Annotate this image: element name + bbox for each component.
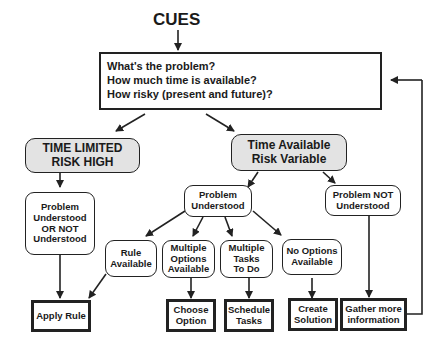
condition-either-understood: Problem Understood OR NOT Understood [25,192,95,255]
action-choose-option: Choose Option [166,299,216,332]
branch-time-available: Time Available Risk Variable [231,134,347,171]
condition-problem-understood: Problem Understood [184,185,252,217]
action-apply-rule: Apply Rule [31,300,91,332]
action-gather-information: Gather more information [340,298,407,331]
action-schedule-tasks: Schedule Tasks [224,299,274,332]
cues-title: CUES [153,10,200,30]
condition-problem-not-understood: Problem NOT Understood [325,185,401,216]
condition-rule-available: Rule Available [105,240,157,277]
assessment-line-problem: What's the problem? [107,60,273,74]
assessment-line-time: How much time is available? [107,74,273,88]
condition-no-options: No Options Available [282,239,342,275]
assessment-box: What's the problem? How much time is ava… [99,52,382,110]
branch-time-limited: TIME LIMITED RISK HIGH [25,138,140,173]
condition-multiple-tasks: Multiple Tasks To Do [220,240,273,278]
action-create-solution: Create Solution [288,298,338,331]
condition-multiple-options: Multiple Options Available [162,240,215,278]
assessment-line-risk: How risky (present and future)? [107,88,273,102]
